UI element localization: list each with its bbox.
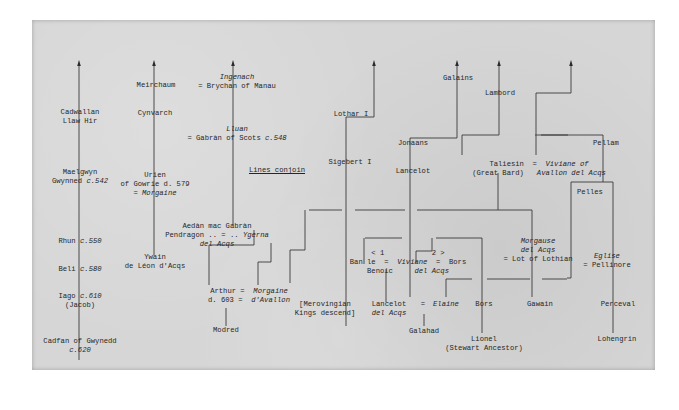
- person-meirchaum: Meirchaum: [137, 81, 176, 90]
- person-elaine: Elaine: [433, 300, 459, 309]
- person-maelgwyn: Maelgwyn Gwynned c.542: [52, 168, 108, 186]
- person-arthur: Arthur = Morgaine d. 603 = d'Avallon: [208, 287, 290, 305]
- person-eglise: Eglise = Pellinore: [583, 252, 630, 270]
- person-bors2: Bors: [475, 300, 492, 309]
- person-merovingian: [Merovingian Kings descend]: [295, 300, 355, 318]
- arrow-up-icon: [455, 60, 459, 66]
- person-sigebert: Sigebert I: [328, 158, 371, 167]
- person-cadfan: Cadfan of Gwynedd c.620: [43, 337, 116, 355]
- person-jonaans: Jonaans: [398, 139, 428, 148]
- person-pelles: Pelles: [577, 188, 603, 197]
- person-lancelot-del-acqs: Lancelot del Acqs: [372, 300, 407, 318]
- lineage-line: [290, 210, 305, 283]
- person-cadwallan: Cadwallan Llaw Hir: [61, 108, 100, 126]
- person-lohengrin: Lohengrin: [598, 335, 637, 344]
- person-perceval: Perceval: [601, 300, 636, 309]
- person-morgause: Morgause del Acqs = Lot of Lothian: [503, 237, 572, 264]
- person-lancelot: Lancelot: [396, 167, 431, 176]
- person-iago: Iago c.610 (Jacob): [58, 292, 101, 310]
- person-galains: Galains: [443, 74, 473, 83]
- lineage-line: [536, 93, 571, 155]
- arrow-up-icon: [152, 60, 156, 66]
- person-aedan: Aedàn mac Gabràn Pendragon .. = .. Ygern…: [165, 222, 269, 249]
- person-elaine-eq: =: [421, 300, 425, 309]
- person-ban: < 1 2 > Ban le = Viviane = Bors Benoic d…: [350, 249, 466, 276]
- person-ingenach: Ingenach = Brychan of Manau: [198, 73, 276, 91]
- arrow-up-icon: [231, 60, 235, 66]
- person-beli: Beli c.580: [58, 265, 101, 274]
- arrow-up-icon: [497, 60, 501, 66]
- person-lines-conjoin: Lines conjoin: [249, 166, 305, 175]
- arrow-up-icon: [372, 60, 376, 66]
- lineage-line: [346, 117, 374, 326]
- person-lluan: Lluan = Gabràn of Scots c.548: [187, 125, 286, 143]
- person-gawain: Gawain: [527, 300, 553, 309]
- lineage-line: [209, 245, 254, 285]
- lineage-line: [446, 279, 472, 297]
- person-pellam: Pellam: [593, 139, 619, 148]
- person-rhun: Rhun c.550: [58, 237, 101, 246]
- person-lionel: Lionel (Stewart Ancestor): [445, 335, 523, 353]
- person-galahad: Galahad: [409, 327, 439, 336]
- person-lambord: Lambord: [485, 89, 515, 98]
- person-urien: Urien of Gowrie d. 579 = Morgaine: [120, 171, 189, 198]
- person-ywain: Ywain de Léon d'Acqs: [125, 253, 185, 271]
- person-cynvarch: Cynvarch: [138, 109, 173, 118]
- lineage-line: [462, 135, 499, 155]
- lineage-line: [258, 262, 271, 285]
- arrow-up-icon: [569, 60, 573, 66]
- person-modred: Modred: [213, 326, 239, 335]
- arrow-up-icon: [77, 60, 81, 66]
- person-lothar: Lothar I: [334, 110, 369, 119]
- person-taliesin: Taliesin = Viviane of (Great Bard) Avall…: [472, 160, 606, 178]
